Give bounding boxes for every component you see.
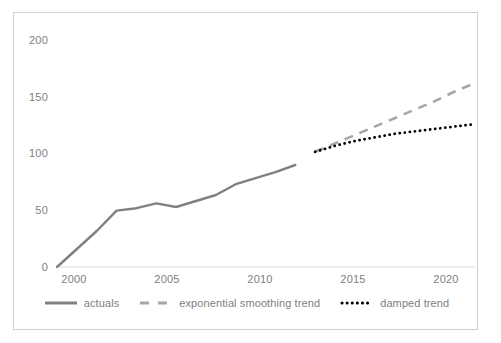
x-axis-tick-2000: 2000 xyxy=(52,273,96,285)
dotted-line-icon xyxy=(340,298,374,308)
x-axis-tick-2010: 2010 xyxy=(238,273,282,285)
solid-line-icon xyxy=(44,298,78,308)
y-axis-tick-0: 0 xyxy=(14,261,48,273)
y-axis-tick-150: 150 xyxy=(14,91,48,103)
x-axis-tick-2020: 2020 xyxy=(424,273,468,285)
legend-item-exponential-smoothing-trend[interactable]: exponential smoothing trend xyxy=(139,297,320,309)
legend-item-actuals[interactable]: actuals xyxy=(44,297,120,309)
dashed-line-icon xyxy=(139,298,173,308)
x-axis-tick-2015: 2015 xyxy=(331,273,375,285)
legend-label-damped-trend: damped trend xyxy=(380,297,449,309)
x-axis-tick-2005: 2005 xyxy=(145,273,189,285)
legend-label-exponential-smoothing-trend: exponential smoothing trend xyxy=(179,297,320,309)
y-axis-tick-200: 200 xyxy=(14,34,48,46)
y-axis-tick-50: 50 xyxy=(14,204,48,216)
chart-legend: actuals exponential smoothing trend damp… xyxy=(14,297,479,309)
legend-label-actuals: actuals xyxy=(84,297,120,309)
series-line-actuals xyxy=(57,165,295,267)
series-line-damped-trend xyxy=(315,124,474,152)
series-line-exponential-smoothing-trend xyxy=(315,83,474,151)
chart-container: 200 150 100 50 0 2000 2005 2010 2015 202… xyxy=(13,12,478,330)
y-axis-tick-100: 100 xyxy=(14,147,48,159)
legend-item-damped-trend[interactable]: damped trend xyxy=(340,297,449,309)
